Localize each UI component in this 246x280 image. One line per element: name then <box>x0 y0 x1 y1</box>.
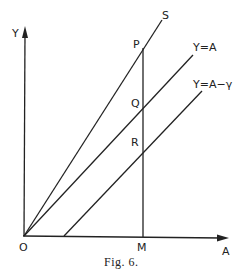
point-q-label: Q <box>131 97 140 110</box>
origin-label: O <box>19 241 28 254</box>
line-y-equals-a-minus-gamma <box>64 91 202 236</box>
line-s-label: S <box>162 9 169 22</box>
fig6-diagram: Y A O S Y=A Y=A−γ P Q R M Fig. 6. <box>0 0 246 280</box>
point-m-label: M <box>137 241 147 254</box>
y-axis-arrow-icon <box>22 26 28 38</box>
line-s <box>24 20 162 236</box>
line-y-equals-a <box>24 55 193 236</box>
line-y-equals-a-minus-gamma-label: Y=A−γ <box>192 78 233 91</box>
y-axis-label: Y <box>11 27 19 40</box>
point-p-label: P <box>133 38 140 51</box>
x-axis-arrow-icon <box>217 235 229 242</box>
x-axis-label: A <box>222 245 230 258</box>
line-y-equals-a-label: Y=A <box>192 41 217 54</box>
figure-caption: Fig. 6. <box>104 255 139 269</box>
point-r-label: R <box>131 136 139 149</box>
y-axis <box>24 32 25 236</box>
x-axis <box>23 236 222 238</box>
